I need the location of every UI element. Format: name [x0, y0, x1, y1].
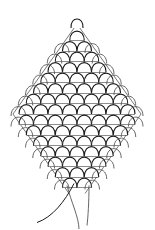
scale	[63, 157, 78, 166]
scale	[70, 52, 85, 61]
scale-row	[55, 42, 100, 53]
scale	[106, 115, 121, 124]
scale	[48, 115, 63, 124]
string-light-left	[67, 186, 79, 230]
scale	[106, 105, 121, 114]
scale-row	[70, 31, 85, 40]
scale-row	[47, 168, 106, 179]
scale-row	[11, 105, 143, 116]
scale	[99, 94, 114, 103]
scale	[70, 31, 85, 40]
scale	[99, 126, 114, 135]
scale	[48, 157, 63, 166]
hanging-strings	[37, 184, 89, 230]
scale-rows	[11, 31, 143, 189]
scale	[77, 63, 92, 72]
scale	[113, 94, 128, 103]
scale	[121, 115, 136, 124]
scale	[19, 115, 34, 124]
scale	[41, 94, 56, 103]
scale	[70, 168, 85, 177]
scale-row	[33, 147, 121, 158]
scale	[63, 178, 78, 187]
scale	[41, 147, 56, 156]
scale	[55, 147, 70, 156]
scale	[84, 94, 99, 103]
scale	[63, 63, 78, 72]
scale	[55, 73, 70, 82]
scale	[70, 73, 85, 82]
scale-row	[26, 84, 129, 95]
scale	[77, 136, 92, 145]
scale	[55, 126, 70, 135]
scale-row	[11, 115, 143, 126]
scale-pattern-drawing	[0, 0, 155, 229]
scale-row	[40, 63, 114, 74]
scale	[26, 126, 41, 135]
scale	[19, 105, 34, 114]
scale	[55, 94, 70, 103]
scale-row	[18, 126, 135, 137]
scale	[55, 168, 70, 177]
top-knob	[71, 19, 83, 28]
scale-row	[33, 73, 121, 84]
scale	[34, 115, 49, 124]
scale	[99, 73, 114, 82]
scale	[92, 105, 107, 114]
scale	[63, 84, 78, 93]
scale	[41, 73, 56, 82]
scale	[77, 84, 92, 93]
scale-row	[40, 157, 114, 168]
scale	[34, 136, 49, 145]
scale	[63, 115, 78, 124]
scale	[63, 136, 78, 145]
scale	[48, 63, 63, 72]
scale	[70, 94, 85, 103]
scale	[84, 168, 99, 177]
scale-row	[26, 136, 129, 147]
scale	[106, 136, 121, 145]
scale	[84, 126, 99, 135]
scale	[92, 157, 107, 166]
scale	[70, 126, 85, 135]
scale	[84, 73, 99, 82]
scale	[84, 147, 99, 156]
knob-loop	[71, 19, 83, 28]
scale	[34, 84, 49, 93]
scale	[34, 105, 49, 114]
scale	[55, 52, 70, 61]
scale	[63, 42, 78, 51]
scale	[77, 105, 92, 114]
scale	[70, 147, 85, 156]
scale	[77, 42, 92, 51]
scale	[99, 147, 114, 156]
scale-row	[18, 94, 135, 105]
scale	[113, 126, 128, 135]
scale	[48, 105, 63, 114]
scale	[106, 84, 121, 93]
scale	[77, 157, 92, 166]
scale	[48, 136, 63, 145]
scale-row	[55, 178, 100, 189]
scale	[92, 136, 107, 145]
scale	[41, 126, 56, 135]
scale	[26, 94, 41, 103]
scale	[84, 52, 99, 61]
scale	[92, 84, 107, 93]
scale	[77, 115, 92, 124]
scale	[63, 105, 78, 114]
scale	[92, 63, 107, 72]
scale	[92, 115, 107, 124]
string-light-right	[87, 186, 89, 226]
scale	[48, 84, 63, 93]
scale	[121, 105, 136, 114]
